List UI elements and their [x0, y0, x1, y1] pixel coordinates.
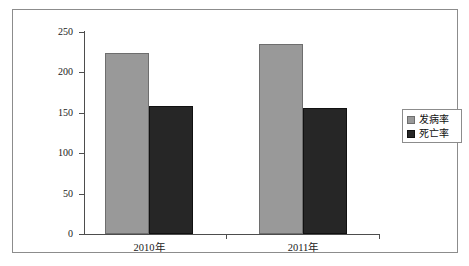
x-axis-tick-label-2010: 2010年	[103, 242, 195, 254]
y-tick-mark	[79, 113, 85, 114]
x-tick-mark	[226, 235, 227, 239]
dark-swatch-icon	[407, 130, 415, 138]
legend-label-mortality: 死亡率	[419, 128, 449, 139]
x-tick-mark	[379, 235, 380, 239]
gray-swatch-icon	[407, 116, 415, 124]
y-axis-tick-label: 50	[31, 189, 73, 199]
figure-frame: 250 200 150 100 50 0 2010年 2011年 发病率 死亡率	[12, 9, 458, 253]
y-tick-mark	[79, 32, 85, 33]
y-axis-line	[84, 31, 85, 235]
legend-entry-incidence: 发病率	[407, 113, 458, 126]
y-axis-tick-label: 150	[31, 108, 73, 118]
bar-chart-figure: 250 200 150 100 50 0 2010年 2011年 发病率 死亡率	[0, 0, 469, 266]
x-axis-tick-label-2011: 2011年	[257, 242, 349, 254]
y-tick-mark	[79, 153, 85, 154]
bar-2010-incidence	[105, 53, 149, 234]
y-tick-mark	[79, 72, 85, 73]
bar-2011-incidence	[259, 44, 303, 234]
bar-2011-mortality	[303, 108, 347, 234]
legend-label-incidence: 发病率	[419, 114, 449, 125]
bar-2010-mortality	[149, 106, 193, 234]
chart-legend: 发病率 死亡率	[402, 109, 462, 143]
x-axis-line	[84, 234, 380, 235]
y-axis-tick-label: 100	[31, 148, 73, 158]
legend-entry-mortality: 死亡率	[407, 127, 458, 140]
y-tick-mark	[79, 234, 85, 235]
y-tick-mark	[79, 194, 85, 195]
y-axis-tick-label: 200	[31, 67, 73, 77]
y-axis-tick-label: 0	[31, 229, 73, 239]
y-axis-tick-label: 250	[31, 27, 73, 37]
